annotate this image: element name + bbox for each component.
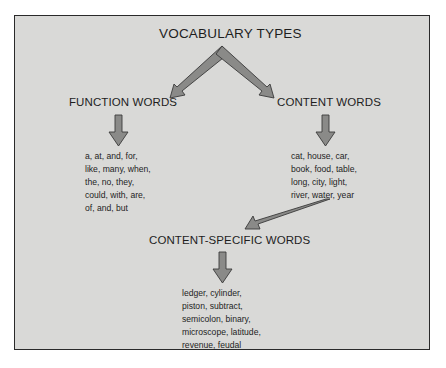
content-words-examples: cat, house, car, book, food, table, long… — [291, 150, 357, 202]
example-line: long, city, light, — [291, 176, 357, 189]
example-line: cat, house, car, — [291, 150, 357, 163]
example-line: could, with, are, — [85, 189, 151, 202]
diagram-title: VOCABULARY TYPES — [159, 26, 302, 41]
example-line: semicolon, binary, — [182, 313, 261, 326]
function-words-label: FUNCTION WORDS — [69, 96, 177, 108]
example-line: river, water, year — [291, 189, 357, 202]
example-line: microscope, latitude, — [182, 326, 261, 339]
example-line: ledger, cylinder, — [182, 287, 261, 300]
content-specific-words-label: CONTENT-SPECIFIC WORDS — [149, 234, 310, 246]
example-line: of, and, but — [85, 202, 151, 215]
example-line: book, food, table, — [291, 163, 357, 176]
example-line: the, no, they, — [85, 176, 151, 189]
example-line: revenue, feudal — [182, 339, 261, 352]
example-line: like, many, when, — [85, 163, 151, 176]
content-specific-words-examples: ledger, cylinder, piston, subtract, semi… — [182, 287, 261, 352]
example-line: piston, subtract, — [182, 300, 261, 313]
example-line: a, at, and, for, — [85, 150, 151, 163]
function-words-examples: a, at, and, for, like, many, when, the, … — [85, 150, 151, 215]
content-words-label: CONTENT WORDS — [277, 96, 381, 108]
